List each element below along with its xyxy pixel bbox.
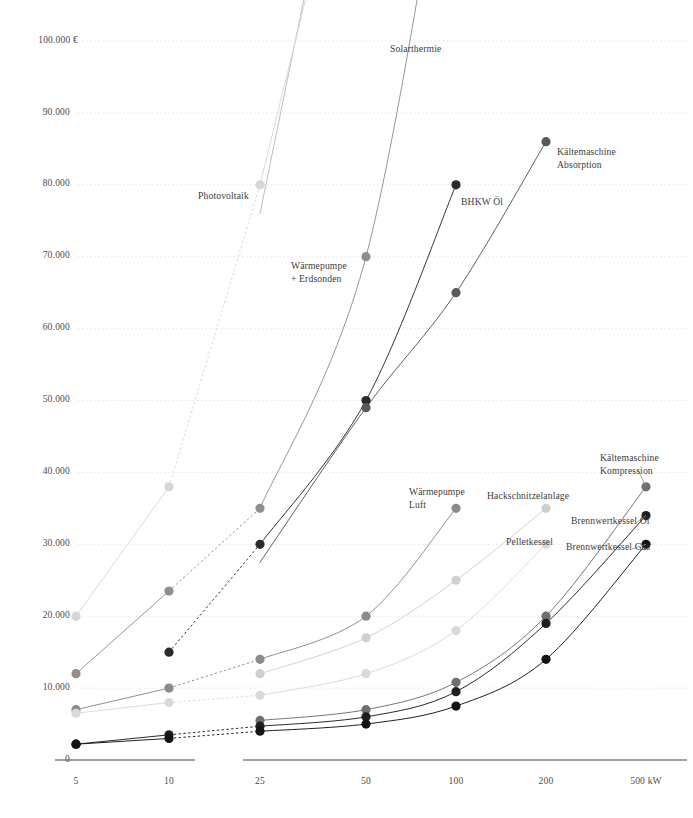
y-tick-100000: 100.000 € — [0, 35, 78, 45]
series-9 — [76, 516, 646, 745]
series-label-waermepumpe-erdsonden: Wärmepumpe + Erdsonden — [291, 260, 347, 285]
data-point — [255, 540, 264, 549]
series-2 — [76, 0, 456, 674]
data-point — [255, 727, 264, 736]
chart-plot-area — [0, 0, 693, 818]
data-point — [451, 180, 460, 189]
x-tick-10: 10 — [153, 776, 185, 786]
data-point — [164, 684, 173, 693]
data-point — [164, 482, 173, 491]
data-point — [361, 252, 370, 261]
x-tick-5: 5 — [60, 776, 92, 786]
series-label-line-1: Kältemaschine — [600, 452, 659, 463]
series-label-line-1: Wärmepumpe — [409, 486, 465, 497]
series-label-line-1: Kältemaschine — [557, 146, 616, 157]
data-point — [451, 687, 460, 696]
data-point — [164, 586, 173, 595]
y-tick-80000: 80.000 — [0, 178, 70, 188]
data-point — [71, 612, 80, 621]
series-label-line-2: Luft — [409, 499, 426, 510]
data-point — [361, 612, 370, 621]
data-point — [451, 288, 460, 297]
series-label-kaeltemaschine-absorption: Kältemaschine Absorption — [557, 146, 616, 171]
series-label-hackschnitzelanlage: Hackschnitzelanlage — [487, 490, 569, 503]
data-point — [164, 734, 173, 743]
series-label-solarthermie: Solarthermie — [390, 43, 441, 56]
series-label-waermepumpe-luft: Wärmepumpe Luft — [409, 486, 465, 511]
data-point — [541, 655, 550, 664]
y-tick-40000: 40.000 — [0, 466, 70, 476]
y-tick-90000: 90.000 — [0, 107, 70, 117]
y-tick-50000: 50.000 — [0, 394, 70, 404]
label-leader-lines — [632, 470, 646, 549]
data-point — [164, 648, 173, 657]
data-point — [451, 576, 460, 585]
data-point — [361, 633, 370, 642]
x-tick-500: 500 kW — [620, 776, 672, 786]
y-tick-20000: 20.000 — [0, 610, 70, 620]
data-point — [255, 180, 264, 189]
series-lines — [76, 0, 646, 744]
series-label-line-2: + Erdsonden — [291, 273, 342, 284]
data-point — [255, 504, 264, 513]
data-point — [164, 698, 173, 707]
data-point — [361, 719, 370, 728]
series-label-bhkw-oel: BHKW Öl — [461, 196, 503, 209]
y-tick-10000: 10.000 — [0, 682, 70, 692]
series-label-kaeltemaschine-kompression: Kältemaschine Kompression — [600, 452, 659, 477]
series-label-brennwertkessel-oel: Brennwertkessel Öl — [571, 515, 650, 528]
y-tick-0: 0 — [0, 754, 70, 764]
y-tick-60000: 60.000 — [0, 322, 70, 332]
x-tick-100: 100 — [440, 776, 472, 786]
series-label-line-2: Absorption — [557, 159, 602, 170]
data-point — [541, 619, 550, 628]
series-1 — [76, 0, 366, 616]
series-points — [71, 137, 650, 749]
series-7 — [76, 544, 546, 713]
series-6 — [260, 508, 546, 673]
series-0 — [260, 0, 366, 214]
x-tick-25: 25 — [244, 776, 276, 786]
data-point — [255, 655, 264, 664]
data-point — [361, 403, 370, 412]
data-point — [541, 504, 550, 513]
series-label-photovoltaik: Photovoltaik — [198, 190, 249, 203]
data-point — [255, 669, 264, 678]
data-point — [71, 669, 80, 678]
series-3 — [169, 185, 456, 652]
data-point — [71, 740, 80, 749]
data-point — [451, 678, 460, 687]
series-label-pelletkessel: Pelletkessel — [506, 536, 553, 549]
data-point — [451, 701, 460, 710]
data-point — [541, 137, 550, 146]
series-label-line-2: Kompression — [600, 465, 653, 476]
data-point — [255, 691, 264, 700]
x-tick-50: 50 — [350, 776, 382, 786]
data-point — [361, 669, 370, 678]
chart-container: 100.000 € 90.000 80.000 70.000 60.000 50… — [0, 0, 693, 818]
series-5 — [76, 508, 456, 709]
x-tick-200: 200 — [530, 776, 562, 786]
y-tick-30000: 30.000 — [0, 538, 70, 548]
series-10 — [76, 544, 646, 744]
data-point — [451, 626, 460, 635]
data-point — [71, 709, 80, 718]
series-label-line-1: Wärmepumpe — [291, 260, 347, 271]
y-tick-70000: 70.000 — [0, 250, 70, 260]
series-label-brennwertkessel-gas: Brennwertkessel Gas — [566, 541, 650, 554]
